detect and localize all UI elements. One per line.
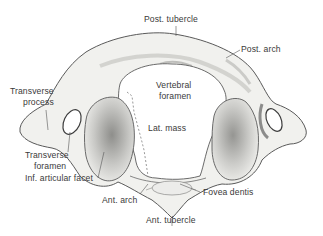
atlas-diagram xyxy=(0,0,323,236)
label-transverse-foramen-line2: foramen xyxy=(34,161,66,171)
label-vertebral-foramen-line2: foramen xyxy=(159,91,191,101)
label-post-arch: Post. arch xyxy=(241,44,281,54)
label-lat-mass: Lat. mass xyxy=(148,123,186,133)
right-inferior-articular-facet xyxy=(212,98,259,180)
label-transverse-process-line2: process xyxy=(23,97,54,107)
label-transverse-foramen-line1: Transverse xyxy=(25,150,69,160)
label-transverse-process-line1: Transverse xyxy=(10,86,54,96)
label-ant-arch: Ant. arch xyxy=(102,195,137,205)
label-vertebral-foramen-line1: Vertebral xyxy=(156,80,191,90)
fovea-dentis-facet xyxy=(152,181,192,195)
label-ant-tubercle: Ant. tubercle xyxy=(146,215,196,225)
label-inf-articular-facet: Inf. articular facet xyxy=(25,173,93,183)
left-inferior-articular-facet xyxy=(85,97,135,181)
label-fovea-dentis: Fovea dentis xyxy=(203,187,253,197)
label-post-tubercle: Post. tubercle xyxy=(144,14,198,24)
